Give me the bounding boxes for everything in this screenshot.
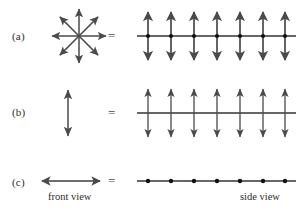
row-c-axis-group — [137, 179, 296, 183]
diagram-canvas — [0, 0, 304, 212]
side-view-caption: side view — [240, 191, 280, 202]
row-label-a: (a) — [12, 30, 25, 42]
front-view-caption: front view — [48, 191, 91, 202]
starburst-symbol — [52, 9, 106, 63]
row-label-c: (c) — [12, 176, 25, 188]
equals-sign-b: = — [108, 105, 115, 121]
row-b-axis-group — [137, 89, 296, 137]
equals-sign-c: = — [108, 173, 115, 189]
row-label-b: (b) — [12, 106, 25, 118]
polarization-diagram: (a) (b) (c) = = = front view side view — [0, 0, 304, 212]
equals-sign-a: = — [108, 28, 115, 44]
row-a-axis-group — [137, 12, 296, 60]
